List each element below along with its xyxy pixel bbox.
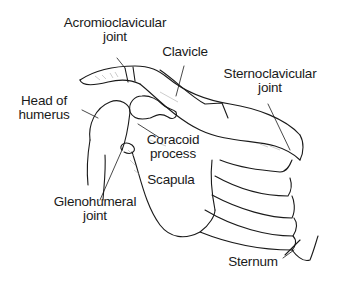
label-line: Scapula [140,173,202,187]
coracoid-outline [130,96,177,119]
humerus-outline [90,101,130,150]
label-line: joint [50,30,180,44]
label-line: Clavicle [155,45,215,59]
label-line: Head of [14,94,74,108]
leader-sternoclavicular [268,104,290,150]
label-scapula: Scapula [140,173,202,187]
label-coracoid-process: Coracoid process [140,133,206,161]
shoulder-anatomy-diagram: Acromioclavicular joint Clavicle Sternoc… [0,0,343,283]
rib-4 [205,210,297,236]
label-line: Acromioclavicular [50,16,180,30]
rib-3 [212,195,294,218]
label-sternoclavicular-joint: Sternoclavicular joint [210,67,330,95]
label-glenohumeral-joint: Glenohumeral joint [40,195,150,223]
label-line: joint [40,209,150,223]
rib-2 [215,176,291,196]
label-sternum: Sternum [220,255,286,269]
leader-clavicle [176,66,184,96]
label-acromioclavicular-joint: Acromioclavicular joint [50,16,180,44]
label-clavicle: Clavicle [155,45,215,59]
label-head-of-humerus: Head of humerus [14,94,74,122]
label-line: joint [210,81,330,95]
label-line: Sternoclavicular [210,67,330,81]
label-line: Sternum [220,255,286,269]
label-line: Coracoid [140,133,206,147]
leader-glenohumeral [100,150,122,200]
rib-1 [220,160,292,172]
label-line: process [140,147,206,161]
label-line: Glenohumeral [40,195,150,209]
label-line: humerus [14,108,74,122]
rib-5 [200,232,296,250]
